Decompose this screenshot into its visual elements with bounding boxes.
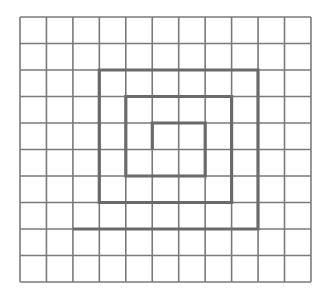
grid-lines: [20, 17, 311, 282]
grid-spiral-diagram: [0, 0, 331, 290]
